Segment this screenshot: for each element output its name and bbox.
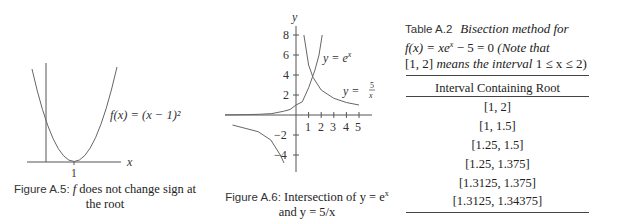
figure-a6-caption: Figure A.6: Intersection of y = ex and y… <box>222 186 392 220</box>
table-column-header: Interval Containing Root <box>406 81 589 96</box>
y-tick-4: 4 <box>283 68 289 82</box>
y-tick-8: 8 <box>283 28 289 42</box>
table-row: [1.3125, 1.375] <box>406 174 589 193</box>
y-tick-6: 6 <box>283 48 289 62</box>
x-tick-5: 5 <box>355 120 361 134</box>
fraction-numerator: 5 <box>370 81 374 90</box>
function-label: f(x) = (x − 1)² <box>110 108 181 122</box>
table-row: [1, 2] <box>406 98 589 117</box>
reciprocal-curve-label: y = <box>342 84 359 98</box>
table-bottom-rule <box>406 212 589 213</box>
x-axis-label: x <box>126 155 133 169</box>
y-axis-label: y <box>291 10 298 24</box>
x-tick-2: 2 <box>318 120 324 134</box>
tick-label-1: 1 <box>71 167 77 179</box>
table-row: [1.3125, 1.34375] <box>406 192 589 211</box>
table-row: [1.25, 1.375] <box>406 155 589 174</box>
fraction-denominator: x <box>368 91 373 100</box>
x-tick-4: 4 <box>343 120 349 134</box>
exp-curve <box>225 35 322 115</box>
table-top-rule <box>406 75 589 76</box>
exp-curve-label: y = ex <box>322 50 352 65</box>
table-row: [1, 1.5] <box>406 117 589 136</box>
table-header-rule <box>406 96 589 97</box>
x-tick-1: 1 <box>305 120 311 134</box>
table-row: [1.25, 1.5] <box>406 136 589 155</box>
figure-a5-caption: Figure A.5: f does not change sign at th… <box>10 182 200 212</box>
y-tick-2: 2 <box>283 88 289 102</box>
y-tick-neg2: −2 <box>274 128 287 142</box>
parabola-curve <box>32 67 117 162</box>
x-tick-3: 3 <box>330 120 336 134</box>
table-a2-title: Table A.2Bisection method for f(x) = xex… <box>405 21 615 72</box>
